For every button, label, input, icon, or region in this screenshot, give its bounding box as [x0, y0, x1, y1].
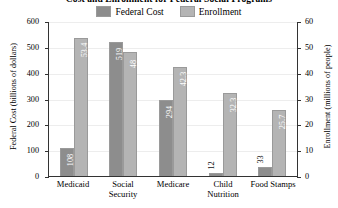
- bar-group: 10853.4: [60, 22, 88, 176]
- bar-group: 51948: [109, 22, 137, 176]
- bar-federal-cost[interactable]: 294: [159, 100, 173, 176]
- chart-legend: Federal Cost Enrollment: [0, 6, 338, 17]
- y-tick-label-right: 40: [305, 70, 338, 78]
- y-tick-label-left: 400: [0, 70, 39, 78]
- y-tick-right: [297, 151, 301, 152]
- x-axis-label: Social Security: [100, 179, 146, 199]
- chart-title: Cost and Enrollment for Federal Social P…: [0, 0, 338, 4]
- y-tick-label-right: 30: [305, 96, 338, 104]
- bar-enrollment[interactable]: 48: [123, 52, 137, 176]
- y-tick-left: [45, 177, 49, 178]
- bar-federal-cost[interactable]: 33: [258, 167, 272, 176]
- bar-value-label: 33: [257, 155, 265, 163]
- enrollment-swatch-icon: [180, 6, 195, 17]
- bar-enrollment[interactable]: 53.4: [74, 38, 88, 176]
- bar-federal-cost[interactable]: 108: [60, 148, 74, 176]
- y-tick-label-right: 60: [305, 18, 338, 26]
- legend-item-enrollment: Enrollment: [180, 6, 242, 17]
- plot-area: 0100200300400500600 0102030405060 10853.…: [48, 22, 298, 177]
- y-tick-label-right: 0: [305, 173, 338, 181]
- legend-label-enrollment: Enrollment: [199, 7, 242, 17]
- cost-swatch-icon: [96, 6, 111, 17]
- y-tick-right: [297, 22, 301, 23]
- bar-group: 3325.7: [258, 22, 286, 176]
- y-tick-label-left: 600: [0, 18, 39, 26]
- y-tick-label-left: 500: [0, 44, 39, 52]
- legend-label-federal-cost: Federal Cost: [115, 7, 163, 17]
- y-tick-right: [297, 100, 301, 101]
- bar-enrollment[interactable]: 42.3: [173, 67, 187, 176]
- bar-value-label: 48: [130, 60, 138, 68]
- bar-value-label: 32.3: [230, 97, 238, 112]
- x-axis-label: Medicare: [150, 179, 196, 199]
- legend-item-federal-cost: Federal Cost: [96, 6, 163, 17]
- x-axis-label: Medicaid: [50, 179, 96, 199]
- bar-value-label: 12: [207, 161, 215, 169]
- y-tick-label-right: 10: [305, 147, 338, 155]
- bar-value-label: 53.4: [81, 43, 89, 58]
- y-tick-label-right: 20: [305, 121, 338, 129]
- bar-enrollment[interactable]: 32.3: [223, 93, 237, 176]
- y-tick-label-right: 50: [305, 44, 338, 52]
- bar-value-label: 42.3: [180, 71, 188, 86]
- y-tick-label-left: 200: [0, 121, 39, 129]
- x-axis-category-labels: MedicaidSocial SecurityMedicareChild Nut…: [48, 179, 298, 199]
- x-axis-label: Child Nutrition: [200, 179, 246, 199]
- chart-container: Cost and Enrollment for Federal Social P…: [0, 0, 338, 208]
- x-axis-label: Food Stamps: [250, 179, 296, 199]
- y-tick-right: [297, 48, 301, 49]
- bar-enrollment[interactable]: 25.7: [272, 110, 286, 176]
- y-tick-label-left: 300: [0, 96, 39, 104]
- y-tick-right: [297, 177, 301, 178]
- bar-value-label: 25.7: [279, 114, 287, 129]
- y-tick-right: [297, 125, 301, 126]
- y-tick-right: [297, 74, 301, 75]
- bar-groups: 10853.45194829442.31232.33325.7: [49, 22, 297, 176]
- y-tick-label-left: 0: [0, 173, 39, 181]
- y-tick-label-left: 100: [0, 147, 39, 155]
- bar-group: 1232.3: [209, 22, 237, 176]
- bar-group: 29442.3: [159, 22, 187, 176]
- bar-federal-cost[interactable]: 12: [209, 173, 223, 176]
- bar-federal-cost[interactable]: 519: [109, 42, 123, 176]
